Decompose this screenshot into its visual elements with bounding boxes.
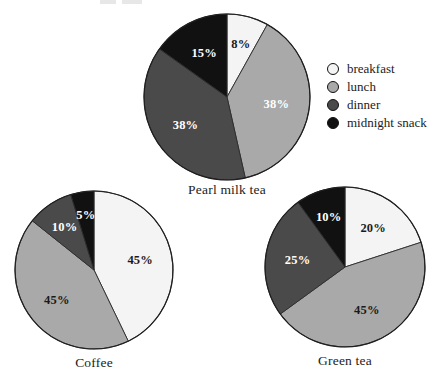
slice-label-lunch: 45% [44, 293, 70, 307]
pie-chart-green-tea: 20%45%25%10%Green tea [263, 185, 427, 375]
legend-swatch-dinner [327, 99, 339, 111]
slice-label-breakfast: 8% [231, 37, 250, 51]
slice-label-lunch: 38% [263, 97, 289, 111]
legend-swatch-breakfast [327, 63, 339, 75]
slice-label-lunch: 45% [354, 303, 380, 317]
pie-svg: 20%45%25%10% [263, 185, 427, 349]
legend-label-midnight-snack: midnight snack [347, 116, 427, 129]
legend-item-breakfast: breakfast [327, 60, 445, 77]
slice-label-dinner: 10% [52, 220, 78, 234]
legend-label-breakfast: breakfast [347, 62, 395, 75]
cropped-text-artifact [100, 0, 142, 4]
legend-item-midnight-snack: midnight snack [327, 114, 445, 131]
pie-chart-coffee: 45%45%10%5%Coffee [13, 189, 175, 377]
slice-label-midnight-snack: 5% [76, 208, 95, 222]
slice-label-dinner: 25% [285, 253, 311, 267]
pie-caption-coffee: Coffee [13, 355, 175, 371]
slice-label-breakfast: 20% [360, 221, 386, 235]
legend-swatch-lunch [327, 81, 339, 93]
slice-label-midnight-snack: 15% [191, 46, 217, 60]
legend-item-lunch: lunch [327, 78, 445, 95]
legend: breakfast lunch dinner midnight snack [327, 60, 445, 132]
slice-label-midnight-snack: 10% [316, 210, 342, 224]
legend-item-dinner: dinner [327, 96, 445, 113]
legend-label-dinner: dinner [347, 98, 380, 111]
legend-label-lunch: lunch [347, 80, 376, 93]
legend-swatch-midnight-snack [327, 117, 339, 129]
slice-label-dinner: 38% [173, 118, 199, 132]
pie-chart-figure: 8%38%38%15%Pearl milk tea 45%45%10%5%Cof… [0, 0, 445, 383]
pie-chart-pearl-milk-tea: 8%38%38%15%Pearl milk tea [142, 12, 312, 208]
slice-label-breakfast: 45% [127, 253, 153, 267]
pie-svg: 45%45%10%5% [13, 189, 175, 351]
pie-svg: 8%38%38%15% [142, 12, 312, 182]
pie-caption-green-tea: Green tea [263, 353, 427, 369]
